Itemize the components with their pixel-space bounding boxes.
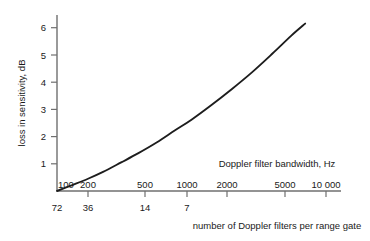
x-axis-tick-labels-bandwidth: 100 200 500 1000 2000 5000 10 000: [58, 179, 341, 190]
y-tick-label-3: 3: [41, 104, 46, 115]
x-axis-title-filters: number of Doppler filters per range gate: [193, 220, 361, 231]
y-tick-label-5: 5: [41, 50, 46, 61]
y-axis-title: loss in sensitivity, dB: [16, 60, 27, 147]
y-tick-label-4: 4: [41, 77, 46, 88]
x-tick-label-2000: 2000: [216, 179, 237, 190]
x-axis-tick-labels-filters: 72 36 14 7: [52, 202, 190, 213]
chart-container: 6 5 4 3 2 1 loss in sensitivity, dB 100 …: [0, 0, 370, 241]
y-axis-tick-labels: 6 5 4 3 2 1: [41, 22, 46, 169]
x-tick-label-36: 36: [83, 202, 94, 213]
x-axis-ticks: [88, 191, 326, 197]
y-tick-label-2: 2: [41, 131, 46, 142]
x-tick-label-72: 72: [52, 202, 63, 213]
x-tick-label-5000: 5000: [274, 179, 295, 190]
y-axis-ticks: [51, 28, 57, 164]
x-axis-title-bandwidth: Doppler filter bandwidth, Hz: [219, 158, 336, 169]
sensitivity-loss-chart: 6 5 4 3 2 1 loss in sensitivity, dB 100 …: [0, 0, 370, 241]
x-tick-label-10000: 10 000: [311, 179, 340, 190]
y-tick-label-1: 1: [41, 158, 46, 169]
x-tick-label-500: 500: [137, 179, 153, 190]
x-tick-label-7: 7: [184, 202, 189, 213]
x-tick-label-14: 14: [140, 202, 151, 213]
y-tick-label-6: 6: [41, 22, 46, 33]
x-tick-label-1000: 1000: [176, 179, 197, 190]
